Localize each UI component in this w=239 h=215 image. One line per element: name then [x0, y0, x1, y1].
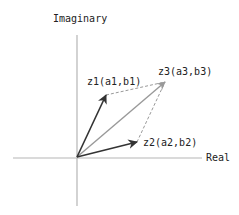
vector-z3-label: z3(a3,b3) — [158, 66, 212, 78]
complex-plane-svg — [0, 0, 239, 215]
real-axis-label: Real — [206, 152, 230, 164]
dashed-edge-z2-z3 — [137, 82, 165, 142]
vector-z1-label: z1(a1,b1) — [87, 76, 141, 88]
vector-z1-arrow — [77, 95, 106, 157]
vector-z2-label: z2(a2,b2) — [143, 137, 197, 149]
diagram-canvas: Imaginary Real z1(a1,b1) z2(a2,b2) z3(a3… — [0, 0, 239, 215]
imaginary-axis-label: Imaginary — [53, 13, 107, 25]
